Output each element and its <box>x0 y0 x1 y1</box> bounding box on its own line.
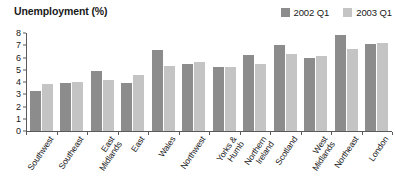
legend-item-1[interactable]: 2002 Q1 <box>281 7 330 18</box>
y-axis-tick-mark <box>23 45 26 46</box>
bar-group <box>270 33 301 131</box>
y-axis-tick: 7 <box>16 41 26 50</box>
y-axis-tick-mark <box>23 57 26 58</box>
bar-group <box>118 33 149 131</box>
bar-series1[interactable] <box>91 71 102 131</box>
y-axis-tick-mark <box>23 106 26 107</box>
y-axis-tick: 5 <box>16 65 26 74</box>
x-axis-tick-mark <box>392 132 393 135</box>
bar-group <box>148 33 179 131</box>
bar-series1[interactable] <box>30 91 41 131</box>
x-axis-label: Southwest <box>26 135 55 172</box>
bar-group <box>179 33 210 131</box>
bar-series1[interactable] <box>274 45 285 131</box>
y-axis-tick-label: 1 <box>16 114 21 123</box>
y-axis-tick-label: 2 <box>16 102 21 111</box>
x-axis-label: East <box>130 135 147 154</box>
x-axis-label-line: East <box>130 135 147 154</box>
y-axis-tick-label: 0 <box>16 127 21 136</box>
bar-series1[interactable] <box>121 83 132 131</box>
x-axis-label: WestMidlands <box>304 135 338 173</box>
plot-area: 876543210 <box>26 33 392 131</box>
bar-series2[interactable] <box>103 80 114 131</box>
bar-series1[interactable] <box>335 35 346 131</box>
y-axis-tick: 2 <box>16 102 26 111</box>
y-axis-tick-label: 4 <box>16 78 21 87</box>
bar-series1[interactable] <box>182 64 193 131</box>
x-axis-labels: SouthwestSoutheastEastMidlandsEastWalesN… <box>26 135 392 195</box>
bar-series2[interactable] <box>377 43 388 131</box>
y-axis-tick-label: 6 <box>16 53 21 62</box>
bar-series1[interactable] <box>152 50 163 131</box>
x-axis-label-line: Northeast <box>333 135 361 170</box>
legend-item-2[interactable]: 2003 Q1 <box>343 7 392 18</box>
bar-group <box>362 33 393 131</box>
x-axis-label-line: Northwest <box>180 135 209 171</box>
x-axis-label: NorthernIreland <box>243 135 277 172</box>
y-axis-tick: 8 <box>16 29 26 38</box>
y-axis-tick: 0 <box>16 127 26 136</box>
y-axis-tick-mark <box>23 69 26 70</box>
bar-groups <box>26 33 392 131</box>
chart-title: Unemployment (%) <box>14 5 108 17</box>
bar-series2[interactable] <box>72 82 83 131</box>
y-axis-tick-label: 7 <box>16 41 21 50</box>
bar-series2[interactable] <box>194 62 205 131</box>
bar-series1[interactable] <box>243 55 254 131</box>
x-axis-label: Northwest <box>180 135 209 171</box>
y-axis-tick-label: 3 <box>16 90 21 99</box>
bar-series1[interactable] <box>213 67 224 131</box>
x-axis-label-line: London <box>368 135 391 163</box>
y-axis-tick-mark <box>23 82 26 83</box>
bar-series2[interactable] <box>42 84 53 131</box>
x-axis-label-line: Scotland <box>274 135 300 167</box>
x-axis-label: London <box>368 135 391 163</box>
bar-series2[interactable] <box>164 66 175 131</box>
bar-series2[interactable] <box>316 56 327 131</box>
bar-series2[interactable] <box>255 64 266 131</box>
x-axis-label: Wales <box>157 135 178 159</box>
legend-swatch-icon <box>343 8 352 17</box>
y-axis-tick: 6 <box>16 53 26 62</box>
y-axis-tick-label: 8 <box>16 29 21 38</box>
y-axis-tick-mark <box>23 94 26 95</box>
bar-series1[interactable] <box>304 58 315 132</box>
bar-group <box>240 33 271 131</box>
x-axis-label: EastMidlands <box>90 135 124 173</box>
x-axis-label-line: Wales <box>157 135 178 159</box>
bar-series2[interactable] <box>133 75 144 131</box>
chart-legend: 2002 Q12003 Q1 <box>281 7 393 18</box>
bar-series2[interactable] <box>286 54 297 131</box>
y-axis-tick-mark <box>23 33 26 34</box>
y-axis-tick: 3 <box>16 90 26 99</box>
x-axis-label: Scotland <box>274 135 300 167</box>
bar-series1[interactable] <box>60 83 71 131</box>
x-axis-label: Yorks &Humb <box>215 135 246 169</box>
y-axis-tick-label: 5 <box>16 65 21 74</box>
bar-group <box>87 33 118 131</box>
x-axis-label-line: Southwest <box>26 135 55 172</box>
x-axis-label: Northeast <box>333 135 361 170</box>
y-axis-tick: 1 <box>16 114 26 123</box>
y-axis-tick-mark <box>23 118 26 119</box>
unemployment-bar-chart: Unemployment (%) 2002 Q12003 Q1 87654321… <box>0 0 395 196</box>
y-axis-tick: 4 <box>16 78 26 87</box>
bar-series2[interactable] <box>225 67 236 131</box>
bar-group <box>209 33 240 131</box>
legend-label: 2003 Q1 <box>356 7 392 18</box>
legend-label: 2002 Q1 <box>294 7 330 18</box>
bar-group <box>26 33 57 131</box>
bar-group <box>301 33 332 131</box>
bar-series2[interactable] <box>347 49 358 131</box>
bar-group <box>57 33 88 131</box>
legend-swatch-icon <box>281 8 290 17</box>
x-axis-label: Southeast <box>58 135 87 171</box>
x-axis-label-line: Southeast <box>58 135 87 171</box>
bar-group <box>331 33 362 131</box>
bar-series1[interactable] <box>365 44 376 131</box>
